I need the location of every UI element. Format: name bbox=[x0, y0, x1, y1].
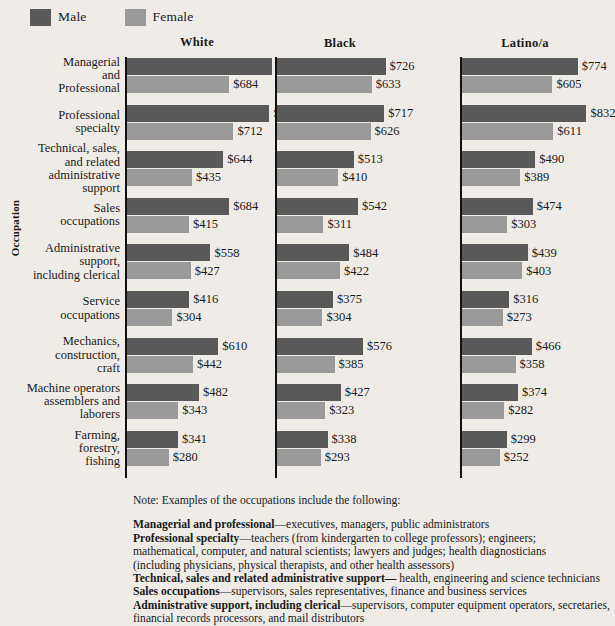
bar-value-label: $293 bbox=[325, 451, 350, 464]
bar-group: $490$389 bbox=[462, 151, 600, 186]
bar-female bbox=[462, 309, 503, 326]
bar-group: $375$304 bbox=[277, 291, 460, 326]
bar-value-label: $304 bbox=[326, 311, 351, 324]
note-term: Managerial and professional bbox=[133, 518, 275, 531]
bar-value-label: $403 bbox=[526, 265, 551, 278]
bar-row-male: $466 bbox=[462, 338, 561, 355]
bar-male bbox=[462, 291, 509, 308]
bar-value-label: $576 bbox=[367, 340, 392, 353]
bar-value-label: $439 bbox=[532, 247, 557, 260]
category-label: Farming,forestry,fishing bbox=[8, 429, 120, 469]
bar-row-female: $280 bbox=[127, 449, 198, 466]
bar-male bbox=[127, 58, 272, 75]
bar-row-female: $282 bbox=[462, 402, 533, 419]
note-line: Technical, sales and related administrat… bbox=[133, 572, 603, 585]
bar-female bbox=[462, 123, 553, 140]
bar-female bbox=[127, 123, 233, 140]
note-text: supervisors, computer equipment operator… bbox=[352, 599, 610, 612]
bar-male bbox=[127, 384, 199, 401]
bar-row-female: $403 bbox=[462, 262, 551, 279]
bar-row-female: $311 bbox=[277, 216, 352, 233]
bar-row-male: $490 bbox=[462, 151, 564, 168]
bar-value-label: $311 bbox=[327, 218, 352, 231]
bar-female bbox=[127, 449, 169, 466]
bar-row-male: $416 bbox=[127, 291, 218, 308]
bar-row-male: $717 bbox=[277, 105, 413, 122]
note-line: (including physicians, physical therapis… bbox=[133, 559, 603, 572]
bar-value-label: $712 bbox=[237, 125, 262, 138]
bar-row-female: $427 bbox=[127, 262, 220, 279]
note-text: (including physicians, physical therapis… bbox=[133, 559, 454, 572]
bar-group: $374$282 bbox=[462, 384, 600, 419]
panel-plot-white: $968$684$953$712$644$435$684$415$558$427… bbox=[127, 57, 275, 478]
bar-row-female: $422 bbox=[277, 262, 369, 279]
bar-value-label: $416 bbox=[193, 293, 218, 306]
bar-row-male: $299 bbox=[462, 431, 536, 448]
chart-legend: Male Female bbox=[30, 7, 193, 27]
legend-item-female: Female bbox=[125, 9, 194, 26]
bar-group: $316$273 bbox=[462, 291, 600, 326]
bar-value-label: $482 bbox=[203, 386, 228, 399]
bar-value-label: $644 bbox=[227, 153, 252, 166]
panel-title-black: Black bbox=[275, 36, 405, 51]
bar-male bbox=[127, 338, 218, 355]
bar-female bbox=[127, 402, 178, 419]
bar-value-label: $385 bbox=[339, 358, 364, 371]
bar-value-label: $343 bbox=[182, 404, 207, 417]
bar-group: $439$403 bbox=[462, 244, 600, 279]
bar-group: $558$427 bbox=[127, 244, 275, 279]
bar-value-label: $435 bbox=[196, 171, 221, 184]
bar-group: $513$410 bbox=[277, 151, 460, 186]
bar-female bbox=[127, 169, 192, 186]
bar-value-label: $633 bbox=[376, 78, 401, 91]
bar-group: $338$293 bbox=[277, 431, 460, 466]
bar-row-female: $633 bbox=[277, 76, 401, 93]
bar-female bbox=[462, 216, 507, 233]
bar-female bbox=[277, 309, 322, 326]
bar-value-label: $304 bbox=[176, 311, 201, 324]
bar-female bbox=[277, 123, 371, 140]
bar-group: $474$303 bbox=[462, 198, 600, 233]
bar-value-label: $273 bbox=[507, 311, 532, 324]
bar-value-label: $466 bbox=[536, 340, 561, 353]
bar-male bbox=[462, 151, 535, 168]
bar-row-female: $435 bbox=[127, 169, 221, 186]
bar-value-label: $422 bbox=[344, 265, 369, 278]
category-label: Serviceoccupations bbox=[8, 295, 120, 321]
bar-value-label: $299 bbox=[511, 433, 536, 446]
category-label-line: Farming, bbox=[8, 429, 120, 442]
bar-female bbox=[127, 76, 229, 93]
bar-value-label: $410 bbox=[342, 171, 367, 184]
bar-male bbox=[462, 431, 507, 448]
bar-row-male: $774 bbox=[462, 58, 607, 75]
category-label: Administrativesupport,including clerical bbox=[8, 242, 120, 282]
category-label: ManagerialandProfessional bbox=[8, 56, 120, 96]
category-label-line: occupations bbox=[8, 309, 120, 322]
note-line: Administrative support, including cleric… bbox=[133, 599, 603, 612]
bar-male bbox=[127, 151, 223, 168]
note-line: mathematical, computer, and natural scie… bbox=[133, 545, 603, 558]
bar-value-label: $389 bbox=[524, 171, 549, 184]
category-label-line: laborers bbox=[8, 408, 120, 421]
category-label: Salesoccupations bbox=[8, 202, 120, 228]
chart-note: Note: Examples of the occupations includ… bbox=[133, 494, 603, 626]
bar-value-label: $427 bbox=[195, 265, 220, 278]
category-label-line: support, bbox=[8, 255, 120, 268]
bar-male bbox=[462, 338, 532, 355]
category-label: Mechanics,construction,craft bbox=[8, 335, 120, 375]
bar-value-label: $684 bbox=[233, 200, 258, 213]
legend-label-female: Female bbox=[153, 9, 194, 25]
bar-row-female: $605 bbox=[462, 76, 581, 93]
category-label-line: Service bbox=[8, 295, 120, 308]
bar-row-female: $611 bbox=[462, 123, 582, 140]
bar-row-male: $474 bbox=[462, 198, 562, 215]
bar-row-female: $442 bbox=[127, 356, 222, 373]
bar-female bbox=[462, 169, 520, 186]
bar-row-female: $626 bbox=[277, 123, 400, 140]
note-term: Sales occupations bbox=[133, 585, 220, 598]
panel-plot-black: $726$633$717$626$513$410$542$311$484$422… bbox=[277, 57, 460, 478]
bar-male bbox=[127, 105, 269, 122]
category-label-line: Technical, sales, bbox=[8, 142, 120, 155]
bar-value-label: $717 bbox=[388, 107, 413, 120]
category-label-line: specialty bbox=[8, 122, 120, 135]
